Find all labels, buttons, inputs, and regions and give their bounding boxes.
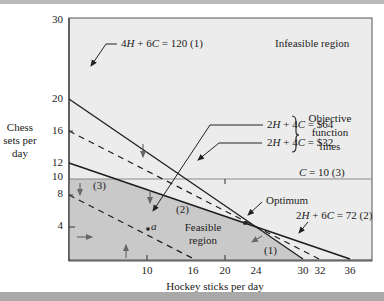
svg-text:function: function: [312, 126, 349, 138]
svg-text:16: 16: [188, 264, 200, 276]
y-tick-labels: 30 20 16 12 10 8 4: [52, 13, 64, 231]
svg-text:30: 30: [52, 13, 64, 25]
svg-text:10: 10: [52, 170, 64, 182]
infeasible-region-label: Infeasible region: [275, 37, 350, 49]
tag-constraint-2: (2): [176, 203, 189, 216]
svg-text:24: 24: [251, 264, 263, 276]
svg-text:20: 20: [52, 92, 64, 104]
constraint-1-label: 4H + 6C = 120 (1): [121, 37, 203, 50]
x-axis-title: Hockey sticks per day: [166, 280, 264, 292]
svg-text:Objective: Objective: [309, 112, 352, 124]
point-a: [146, 227, 150, 231]
optimum-point: [243, 221, 247, 225]
lp-graph: 30 20 16 12 10 8 4 10 16 20 24 30 32 36 …: [0, 0, 384, 301]
svg-text:36: 36: [345, 264, 357, 276]
svg-text:16: 16: [52, 124, 64, 136]
svg-text:10: 10: [142, 264, 154, 276]
optimum-label: Optimum: [266, 194, 309, 206]
tag-constraint-3: (3): [93, 179, 106, 192]
svg-text:30: 30: [298, 264, 310, 276]
svg-text:20: 20: [220, 264, 232, 276]
tag-constraint-1: (1): [264, 244, 277, 257]
svg-text:8: 8: [58, 187, 64, 199]
svg-text:lines: lines: [320, 140, 341, 152]
svg-text:Chess: Chess: [7, 121, 33, 133]
svg-text:Feasible: Feasible: [185, 221, 222, 233]
svg-text:sets per: sets per: [3, 134, 37, 146]
constraint-3-label: C = 10 (3): [299, 166, 345, 179]
y-axis-title: Chess sets per day: [3, 121, 37, 159]
feasible-region-label: Feasible region: [185, 221, 222, 246]
svg-text:32: 32: [315, 264, 326, 276]
svg-text:region: region: [189, 234, 218, 246]
svg-text:12: 12: [52, 156, 63, 168]
x-tick-labels: 10 16 20 24 30 32 36: [142, 264, 357, 276]
svg-text:day: day: [12, 147, 28, 159]
point-a-label: a: [151, 220, 157, 232]
svg-text:4: 4: [58, 219, 64, 231]
bottom-band: [0, 292, 384, 301]
constraint-2-label: 2H + 6C = 72 (2): [296, 209, 373, 222]
